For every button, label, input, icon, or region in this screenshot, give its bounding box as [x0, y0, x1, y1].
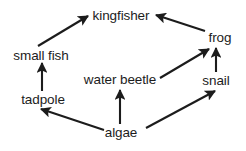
arrow-algae-to-snail: [146, 91, 215, 128]
node-kingfisher: kingfisher: [93, 8, 150, 23]
node-snail: snail: [202, 73, 229, 88]
food-web-diagram: kingfisherfrogsmall fishwater beetlesnai…: [0, 0, 246, 151]
node-water_beetle: water beetle: [84, 72, 156, 87]
node-frog: frog: [209, 30, 232, 45]
arrow-small_fish-to-kingfisher: [38, 16, 88, 46]
node-algae: algae: [105, 125, 138, 140]
arrow-algae-to-tadpole: [41, 109, 104, 130]
node-tadpole: tadpole: [21, 92, 65, 107]
node-small_fish: small fish: [13, 48, 68, 63]
arrow-frog-to-kingfisher: [156, 15, 205, 31]
